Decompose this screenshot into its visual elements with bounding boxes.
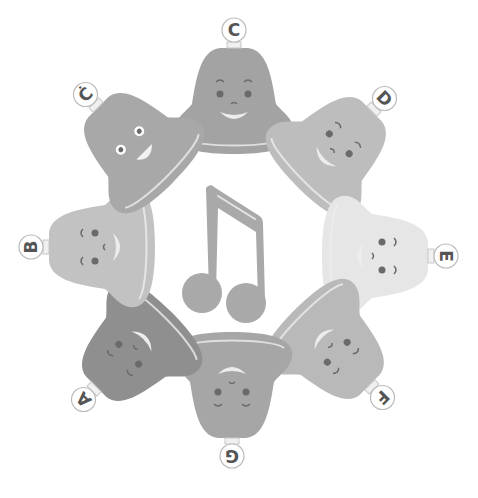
bell-ring-illustration: CDEFGABĊ [0, 0, 478, 498]
beamed-eighth-notes-icon [0, 0, 478, 498]
